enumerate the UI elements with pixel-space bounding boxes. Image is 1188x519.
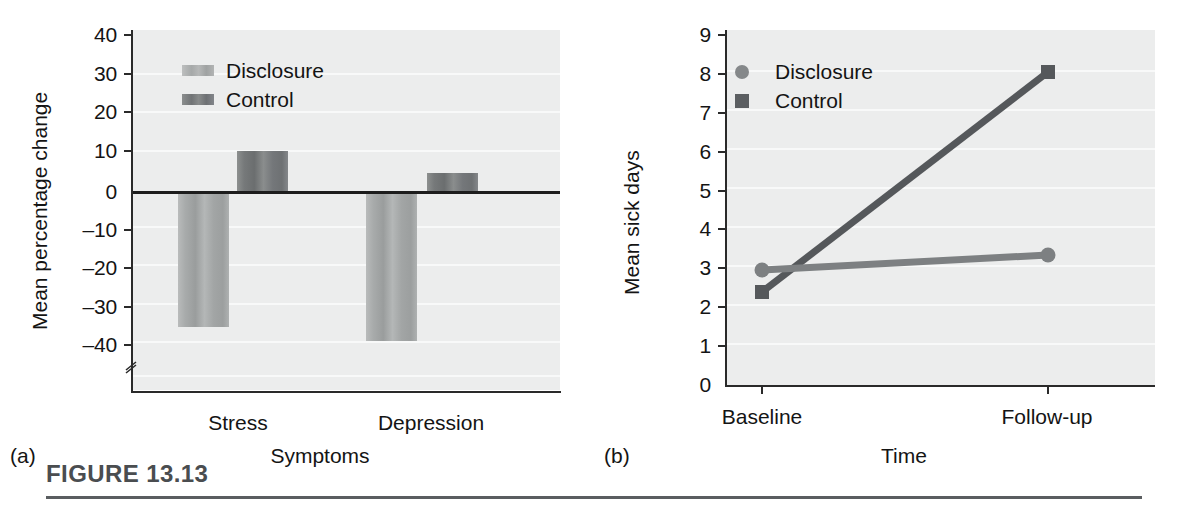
y-tick: [124, 306, 133, 308]
y-tick-label: 7: [639, 102, 711, 123]
y-tick: [718, 345, 727, 347]
y-tick-label: 8: [639, 63, 711, 84]
y-tick-label: 3: [639, 257, 711, 278]
y-tick-label: 9: [639, 24, 711, 45]
legend-label-control: Control: [226, 89, 294, 110]
panel-b-x-axis-title: Time: [829, 444, 979, 468]
x-tick-baseline: [761, 385, 763, 394]
legend-swatch-disclosure-icon: [182, 65, 214, 76]
gridline: [133, 341, 560, 343]
y-tick-label: 30: [32, 63, 117, 84]
legend-label-disclosure: Disclosure: [226, 60, 324, 81]
panel-b-letter: (b): [604, 444, 630, 468]
legend-item-control: Control: [182, 89, 294, 110]
y-tick: [718, 34, 727, 36]
panel-a-x-axis: [131, 391, 561, 393]
x-tick-label-stress: Stress: [163, 412, 313, 433]
gridline: [727, 148, 1155, 150]
legend-swatch-control-icon: [182, 94, 214, 105]
y-tick: [124, 150, 133, 152]
y-tick-label: 5: [639, 180, 711, 201]
y-tick: [718, 151, 727, 153]
zero-baseline: [133, 191, 560, 194]
legend-item-disclosure: Disclosure: [182, 60, 324, 81]
legend-item-disclosure: Disclosure: [726, 61, 873, 82]
legend-item-control: Control: [726, 90, 843, 111]
legend-square-control-icon: [735, 94, 749, 108]
panel-a-bar-chart: 40 30 20 10 0 –10 –20 –30 –40 Mean perce…: [0, 0, 594, 470]
x-tick-label-baseline: Baseline: [687, 406, 837, 427]
y-tick-label: 40: [32, 24, 117, 45]
bar-stress-control: [237, 151, 288, 192]
legend-circle-disclosure-icon: [735, 65, 749, 79]
panel-b-plot-area: [727, 30, 1155, 385]
x-tick-followup: [1047, 385, 1049, 394]
y-tick: [124, 267, 133, 269]
panel-a-y-axis-title: Mean percentage change: [28, 92, 52, 330]
y-tick: [124, 344, 133, 346]
figure-13-13: 40 30 20 10 0 –10 –20 –30 –40 Mean perce…: [0, 0, 1188, 519]
y-tick: [718, 228, 727, 230]
caption-divider: [46, 496, 1142, 499]
gridline: [727, 304, 1155, 306]
gridline: [727, 187, 1155, 189]
panel-a-letter: (a): [10, 444, 36, 468]
axis-break-icon: [125, 361, 139, 377]
y-tick-label: 2: [639, 296, 711, 317]
y-tick: [718, 267, 727, 269]
gridline: [133, 375, 560, 377]
y-tick: [124, 229, 133, 231]
panel-b-line-chart: 9 8 7 6 5 4 3 2 1 0 Mean sick days Basel…: [594, 0, 1188, 470]
x-tick-label-depression: Depression: [346, 412, 516, 433]
y-tick-label: 0: [639, 374, 711, 395]
y-tick: [124, 34, 133, 36]
gridline: [133, 150, 560, 152]
y-tick: [718, 306, 727, 308]
y-tick-label: 4: [639, 218, 711, 239]
y-tick-label: 1: [639, 335, 711, 356]
y-tick: [718, 112, 727, 114]
legend-label-disclosure: Disclosure: [775, 61, 873, 82]
panel-a-plot-area: [133, 30, 560, 390]
y-tick: [124, 111, 133, 113]
y-tick: [718, 190, 727, 192]
panel-b-x-axis: [725, 385, 1155, 387]
panel-a-x-axis-title: Symptoms: [195, 444, 445, 468]
figure-caption: FIGURE 13.13: [46, 460, 208, 488]
gridline: [133, 111, 560, 113]
gridline: [727, 343, 1155, 345]
panel-a-y-axis: [131, 30, 133, 393]
y-tick-label: –40: [32, 334, 117, 355]
panel-b-y-axis-title: Mean sick days: [620, 150, 644, 295]
gridline: [727, 226, 1155, 228]
bar-depression-disclosure: [366, 192, 417, 341]
bar-stress-disclosure: [178, 192, 229, 327]
y-tick: [124, 73, 133, 75]
x-tick-label-followup: Follow-up: [972, 406, 1122, 427]
gridline: [727, 265, 1155, 267]
legend-label-control: Control: [775, 90, 843, 111]
bar-depression-control: [427, 173, 478, 192]
y-tick-label: 6: [639, 141, 711, 162]
panel-b-y-axis: [725, 30, 727, 386]
